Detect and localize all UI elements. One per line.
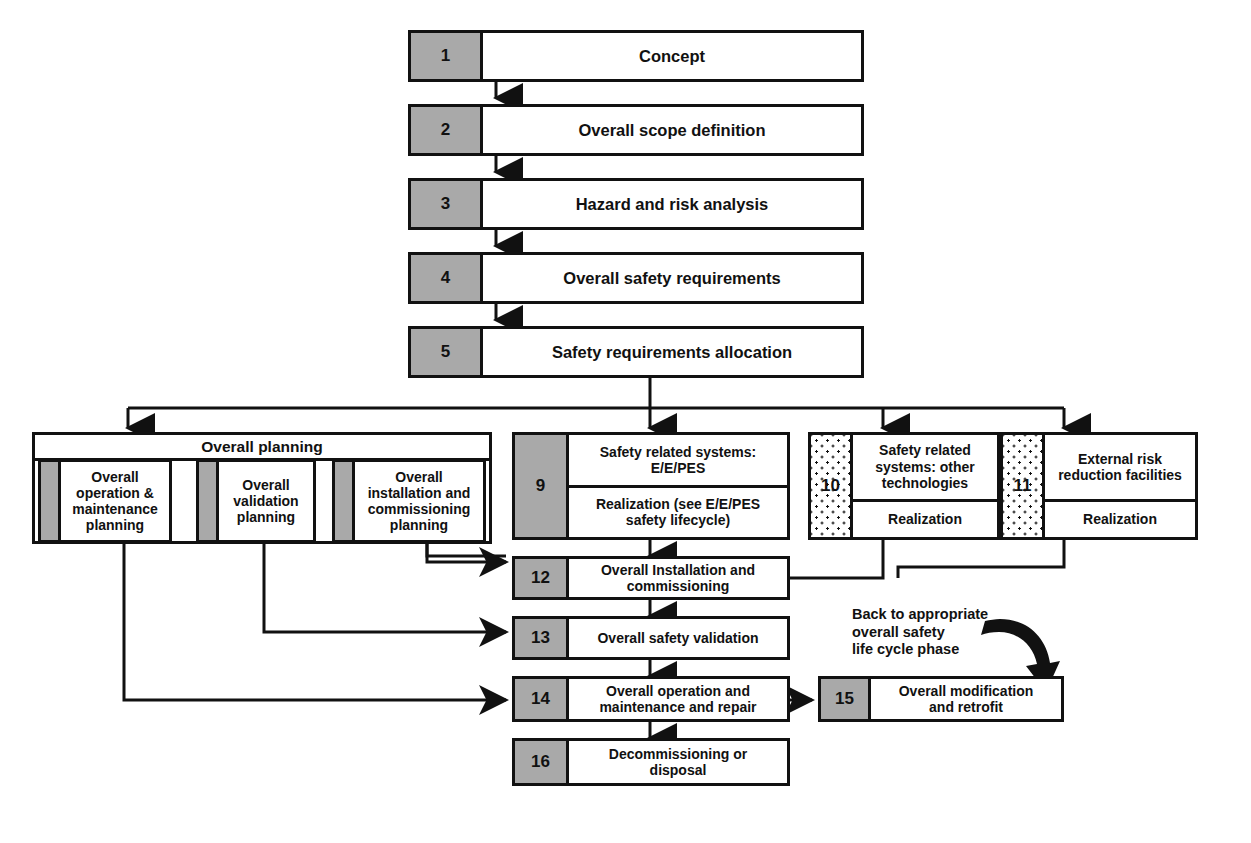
node-4-overall-safety-requirements[interactable]: 4 Overall safety requirements [408,252,864,304]
node-2-number: 2 [411,107,483,153]
node-15-label: Overall modification and retrofit [871,679,1061,719]
node-14-label: Overall operation and maintenance and re… [569,679,787,719]
node-9-safety-related-systems-eepes[interactable]: 9 Safety related systems: E/E/PES Realiz… [512,432,790,540]
node-overall-validation-planning[interactable]: Overall validation planning [196,459,316,543]
node-1-number: 1 [411,33,483,79]
node-15-number: 15 [821,679,871,719]
node-9-number: 9 [515,435,569,537]
node-11-external-risk-reduction-facilities[interactable]: 11 External risk reduction facilities Re… [1000,432,1198,540]
node-3-label: Hazard and risk analysis [483,181,861,227]
node-12-label: Overall Installation and commissioning [569,559,787,597]
node-1-label: Concept [483,33,861,79]
node-12-number: 12 [515,559,569,597]
node-10-safety-related-systems-other-technologies[interactable]: 10 Safety related systems: other technol… [808,432,1000,540]
node-5-number: 5 [411,329,483,375]
node-16-label: Decommissioning or disposal [569,741,787,783]
node-9-label: Safety related systems: E/E/PES [569,435,787,485]
node-10-body: Safety related systems: other technologi… [853,435,997,537]
node-5-safety-requirements-allocation[interactable]: 5 Safety requirements allocation [408,326,864,378]
node-6-number [41,462,61,540]
node-10-label: Safety related systems: other technologi… [853,435,997,499]
node-7-label: Overall validation planning [219,462,313,540]
node-11-label-2: Realization [1045,499,1195,537]
node-4-number: 4 [411,255,483,301]
node-6-label: Overall operation & maintenance planning [61,462,169,540]
node-13-overall-safety-validation[interactable]: 13 Overall safety validation [512,616,790,660]
node-10-label-2: Realization [853,499,997,537]
node-overall-operation-maintenance-planning[interactable]: Overall operation & maintenance planning [38,459,172,543]
node-13-label: Overall safety validation [569,619,787,657]
node-1-concept[interactable]: 1 Concept [408,30,864,82]
node-8-label: Overall installation and commissioning p… [355,462,483,540]
node-9-label-2: Realization (see E/E/PES safety lifecycl… [569,485,787,538]
node-14-number: 14 [515,679,569,719]
node-3-number: 3 [411,181,483,227]
node-2-label: Overall scope definition [483,107,861,153]
node-14-overall-operation-maintenance-repair[interactable]: 14 Overall operation and maintenance and… [512,676,790,722]
node-12-overall-installation-and-commissioning[interactable]: 12 Overall Installation and commissionin… [512,556,790,600]
node-5-label: Safety requirements allocation [483,329,861,375]
node-3-hazard-and-risk-analysis[interactable]: 3 Hazard and risk analysis [408,178,864,230]
node-13-number: 13 [515,619,569,657]
node-10-number: 10 [811,435,853,537]
back-to-phase-annotation: Back to appropriate overall safety life … [852,606,988,659]
node-15-overall-modification-and-retrofit[interactable]: 15 Overall modification and retrofit [818,676,1064,722]
node-11-label: External risk reduction facilities [1045,435,1195,499]
overall-planning-label: Overall planning [35,435,489,461]
node-16-number: 16 [515,741,569,783]
node-4-label: Overall safety requirements [483,255,861,301]
node-16-decommissioning-or-disposal[interactable]: 16 Decommissioning or disposal [512,738,790,786]
node-2-overall-scope-definition[interactable]: 2 Overall scope definition [408,104,864,156]
node-9-body: Safety related systems: E/E/PES Realizat… [569,435,787,537]
node-7-number [199,462,219,540]
safety-lifecycle-diagram: 1 Concept 2 Overall scope definition 3 H… [0,0,1251,843]
node-11-body: External risk reduction facilities Reali… [1045,435,1195,537]
node-8-number [335,462,355,540]
node-11-number: 11 [1003,435,1045,537]
node-overall-installation-commissioning-planning[interactable]: Overall installation and commissioning p… [332,459,486,543]
